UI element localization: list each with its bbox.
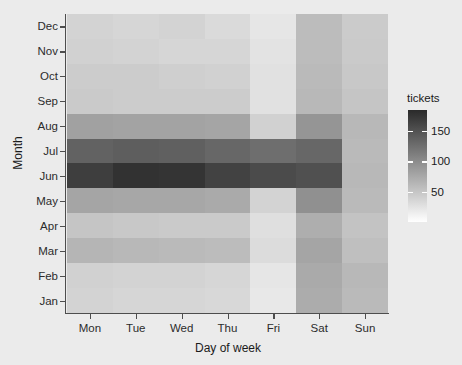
y-tick-label-feb: Feb <box>6 270 58 282</box>
y-tick-mark <box>60 201 65 202</box>
heatmap-cell <box>67 14 113 39</box>
heatmap-cell <box>113 263 159 288</box>
heatmap-cell <box>250 139 296 164</box>
x-tick-label-mon: Mon <box>79 322 101 334</box>
heatmap-cell <box>296 188 342 213</box>
x-tick-label-wed: Wed <box>170 322 193 334</box>
x-tick-label-sat: Sat <box>311 322 328 334</box>
y-tick-mark <box>60 126 65 127</box>
heatmap-cell <box>205 14 251 39</box>
y-axis-title: Month <box>11 113 25 193</box>
heatmap-cell <box>342 139 388 164</box>
y-tick-mark <box>60 276 65 277</box>
heatmap-cell <box>205 39 251 64</box>
heatmap-cell <box>159 89 205 114</box>
legend-tick-mark <box>408 131 413 132</box>
heatmap-cell <box>296 213 342 238</box>
heatmap-cell <box>342 114 388 139</box>
color-legend: tickets 15010050 <box>400 92 462 237</box>
heatmap-cell <box>159 39 205 64</box>
heatmap-cell <box>342 238 388 263</box>
y-tick-label-dec: Dec <box>6 20 58 32</box>
heatmap-cell <box>159 213 205 238</box>
y-tick-mark <box>60 76 65 77</box>
heatmap-cell <box>67 114 113 139</box>
heatmap-cell <box>250 238 296 263</box>
x-tick-label-tue: Tue <box>126 322 145 334</box>
heatmap-cell <box>250 213 296 238</box>
heatmap-cell <box>296 163 342 188</box>
legend-tick-mark <box>408 161 413 162</box>
x-tick-mark <box>365 314 366 319</box>
heatmap-cell <box>250 89 296 114</box>
heatmap-cell <box>342 163 388 188</box>
heatmap-cell <box>159 139 205 164</box>
heatmap-cell <box>296 39 342 64</box>
heatmap-cell <box>205 114 251 139</box>
legend-colorbar <box>408 110 427 222</box>
heatmap-cell <box>342 89 388 114</box>
heatmap-cell <box>296 89 342 114</box>
legend-title: tickets <box>407 92 440 104</box>
heatmap-cell <box>250 64 296 89</box>
heatmap-cell <box>67 39 113 64</box>
x-tick-label-sun: Sun <box>355 322 375 334</box>
legend-tick-mark <box>408 192 413 193</box>
heatmap-cell <box>205 163 251 188</box>
x-axis-title: Day of week <box>0 341 456 355</box>
legend-tick-mark <box>422 131 427 132</box>
heatmap-cell <box>205 288 251 313</box>
heatmap-cell <box>250 263 296 288</box>
heatmap-cell <box>250 288 296 313</box>
heatmap-cell <box>67 213 113 238</box>
heatmap-cell <box>159 64 205 89</box>
y-tick-label-may: May <box>6 195 58 207</box>
heatmap-figure: DecNovOctSepAugJulJunMayAprMarFebJan Day… <box>0 0 462 365</box>
heatmap-cell <box>296 263 342 288</box>
heatmap-cell <box>342 39 388 64</box>
heatmap-cell <box>250 188 296 213</box>
heatmap-cell <box>113 14 159 39</box>
heatmap-cell <box>250 114 296 139</box>
y-tick-mark <box>60 226 65 227</box>
y-tick-label-sep: Sep <box>6 95 58 107</box>
heatmap-cell <box>250 14 296 39</box>
y-tick-label-jan: Jan <box>6 295 58 307</box>
heatmap-cell <box>113 213 159 238</box>
heatmap-cell <box>113 139 159 164</box>
heatmap-cell <box>159 163 205 188</box>
y-tick-label-oct: Oct <box>6 70 58 82</box>
heatmap-cell <box>205 64 251 89</box>
heatmap-cell <box>67 263 113 288</box>
heatmap-cell <box>67 163 113 188</box>
heatmap-cell <box>113 89 159 114</box>
y-tick-mark <box>60 26 65 27</box>
heatmap-cell <box>205 213 251 238</box>
heatmap-cell <box>205 238 251 263</box>
legend-tick-mark <box>422 192 427 193</box>
heatmap-cell <box>67 238 113 263</box>
heatmap-cell <box>113 163 159 188</box>
y-axis-tick-labels: DecNovOctSepAugJulJunMayAprMarFebJan <box>0 0 58 365</box>
heatmap-cell <box>159 288 205 313</box>
heatmap-cell <box>159 14 205 39</box>
heatmap-cell <box>342 64 388 89</box>
heatmap-cell <box>205 89 251 114</box>
x-tick-mark <box>90 314 91 319</box>
heatmap-cell <box>113 288 159 313</box>
heatmap-cell <box>159 114 205 139</box>
legend-tick-label: 100 <box>431 155 450 167</box>
y-tick-mark <box>60 151 65 152</box>
x-tick-label-fri: Fri <box>267 322 280 334</box>
heatmap-cell <box>342 263 388 288</box>
heatmap-cell <box>205 139 251 164</box>
x-tick-mark <box>136 314 137 319</box>
y-tick-mark <box>60 301 65 302</box>
heatmap-cell <box>342 213 388 238</box>
y-tick-label-nov: Nov <box>6 45 58 57</box>
heatmap-cell <box>250 163 296 188</box>
heatmap-cell <box>159 263 205 288</box>
heatmap-cell <box>250 39 296 64</box>
heatmap-cell <box>342 14 388 39</box>
y-tick-mark <box>60 251 65 252</box>
